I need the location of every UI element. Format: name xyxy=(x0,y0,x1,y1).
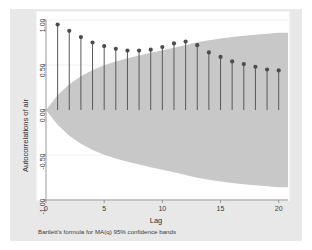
x-tick-label: 15 xyxy=(211,205,231,212)
x-tick-label: 0 xyxy=(36,205,56,212)
plot-svg xyxy=(0,0,312,250)
y-tick-label: 0.00 xyxy=(39,109,46,139)
y-axis-title: Autocorrelations of air xyxy=(21,99,30,172)
y-tick-label: 0.50 xyxy=(39,64,46,94)
x-tick-label: 10 xyxy=(152,205,172,212)
confidence-band xyxy=(46,33,288,187)
x-axis-title: Lag xyxy=(0,216,312,225)
x-tick-label: 5 xyxy=(94,205,114,212)
x-tick-label: 20 xyxy=(269,205,289,212)
chart-footnote: Bartlett's formula for MA(q) 95% confide… xyxy=(38,228,176,235)
acf-figure: -1.00-0.500.000.501.0005101520 Autocorre… xyxy=(0,0,312,250)
y-tick-label: 1.00 xyxy=(39,19,46,49)
y-tick-label: -0.50 xyxy=(39,154,46,184)
